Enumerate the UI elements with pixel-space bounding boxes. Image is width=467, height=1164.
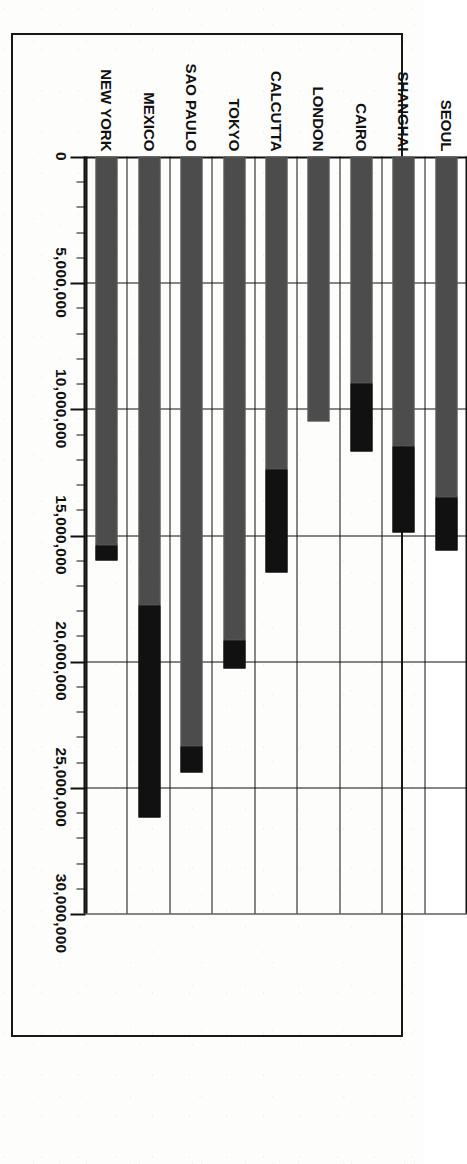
tick-major xyxy=(70,409,85,411)
bar-segment-upper xyxy=(265,469,287,572)
tick-minor xyxy=(76,182,85,183)
tick-major xyxy=(70,157,85,159)
bar-segment-lower xyxy=(307,157,329,422)
value-tick-label: 10,000,000 xyxy=(51,369,69,449)
category-separator xyxy=(126,157,127,914)
bar-cairo xyxy=(350,157,372,914)
category-separator xyxy=(339,157,340,914)
category-label-calcutta: CALCUTTA xyxy=(269,71,284,157)
bar-segment-lower xyxy=(95,157,117,546)
category-separator xyxy=(211,157,212,914)
bar-segment-lower xyxy=(138,157,160,606)
chart-inner: 05,000,00010,000,00015,000,00020,000,000… xyxy=(0,157,467,914)
tick-minor xyxy=(76,485,85,486)
rotated-chart-container: 05,000,00010,000,00015,000,00020,000,000… xyxy=(0,157,467,914)
category-separator xyxy=(169,157,170,914)
tick-major xyxy=(70,283,85,285)
tick-minor xyxy=(76,358,85,359)
bar-segment-lower xyxy=(350,157,372,384)
tick-minor xyxy=(76,232,85,233)
value-tick-label: 15,000,000 xyxy=(51,495,69,575)
tick-minor xyxy=(76,636,85,637)
gridline-30000000 xyxy=(85,914,467,915)
category-label-new-york: NEW YORK xyxy=(99,69,114,156)
bar-segment-lower xyxy=(435,157,457,498)
tick-minor xyxy=(76,585,85,586)
chart-frame-border: 05,000,00010,000,00015,000,00020,000,000… xyxy=(11,33,403,1037)
tick-minor xyxy=(76,333,85,334)
tick-minor xyxy=(76,712,85,713)
bar-calcutta xyxy=(265,157,287,914)
value-tick-label: 25,000,000 xyxy=(51,748,69,828)
tick-minor xyxy=(76,459,85,460)
category-separator xyxy=(296,157,297,914)
tick-minor xyxy=(76,863,85,864)
tick-major xyxy=(70,914,85,916)
category-label-london: LONDON xyxy=(311,87,326,157)
bar-segment-upper xyxy=(138,606,160,818)
bar-segment-upper xyxy=(223,641,245,669)
bar-segment-lower xyxy=(180,157,202,747)
category-label-shanghai: SHANGHAI xyxy=(396,71,411,156)
tick-minor xyxy=(76,384,85,385)
category-label-tokyo: TOKYO xyxy=(226,98,241,156)
tick-minor xyxy=(76,762,85,763)
value-tick-label: 0 xyxy=(51,152,69,161)
tick-minor xyxy=(76,813,85,814)
tick-minor xyxy=(76,510,85,511)
bar-segment-lower xyxy=(392,157,414,447)
bar-segment-upper xyxy=(435,497,457,550)
bar-segment-lower xyxy=(265,157,287,470)
bar-new-york xyxy=(95,157,117,914)
bar-segment-upper xyxy=(350,384,372,452)
tick-minor xyxy=(76,434,85,435)
bar-tokyo xyxy=(223,157,245,914)
tick-minor xyxy=(76,611,85,612)
tick-minor xyxy=(76,686,85,687)
value-tick-label: 30,000,000 xyxy=(51,874,69,954)
bar-mexico xyxy=(138,157,160,914)
tick-major xyxy=(70,787,85,789)
category-label-seoul: SEOUL xyxy=(438,100,453,157)
tick-minor xyxy=(76,257,85,258)
category-label-sao-paulo: SAO PAULO xyxy=(184,63,199,156)
tick-minor xyxy=(76,838,85,839)
bar-london xyxy=(307,157,329,914)
category-separator xyxy=(381,157,382,914)
bar-shanghai xyxy=(392,157,414,914)
category-separator xyxy=(254,157,255,914)
category-separator xyxy=(424,157,425,914)
value-tick-label: 20,000,000 xyxy=(51,621,69,701)
tick-minor xyxy=(76,308,85,309)
bar-segment-upper xyxy=(392,447,414,533)
tick-minor xyxy=(76,737,85,738)
tick-minor xyxy=(76,888,85,889)
bar-seoul xyxy=(435,157,457,914)
tick-major xyxy=(70,661,85,663)
bar-segment-lower xyxy=(223,157,245,641)
bar-segment-upper xyxy=(95,545,117,560)
category-label-mexico: MEXICO xyxy=(141,92,156,156)
value-tick-label: 5,000,000 xyxy=(51,247,69,318)
category-label-cairo: CAIRO xyxy=(353,103,368,156)
bar-segment-upper xyxy=(180,747,202,772)
tick-minor xyxy=(76,560,85,561)
bar-sao-paulo xyxy=(180,157,202,914)
tick-major xyxy=(70,535,85,537)
tick-minor xyxy=(76,207,85,208)
